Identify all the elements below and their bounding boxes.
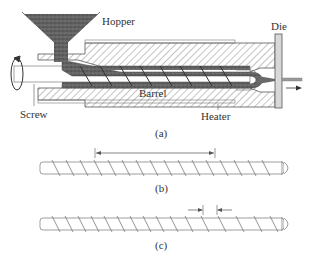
heater-label: Heater	[201, 111, 230, 122]
screw-label: Screw	[20, 109, 48, 120]
barrel-label: Barrel	[139, 88, 166, 99]
caption-a: (a)	[155, 128, 167, 139]
flow-arrow-icon	[286, 86, 302, 91]
hopper-label: Hopper	[102, 16, 135, 27]
die-plate	[275, 34, 282, 108]
die-label: Die	[271, 21, 287, 32]
extrudate	[282, 78, 302, 81]
caption-c: (c)	[155, 240, 167, 251]
caption-b: (b)	[155, 183, 168, 194]
panel-b-screw	[40, 148, 288, 176]
heater-band-top	[85, 40, 235, 43]
panel-c-screw	[40, 205, 288, 232]
